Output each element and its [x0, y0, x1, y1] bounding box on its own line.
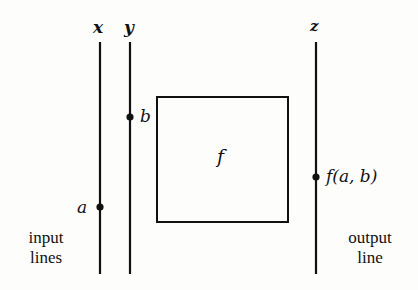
function-label-f: f — [217, 147, 224, 166]
line-label-x: x — [93, 19, 103, 36]
output-caption-line1: output — [337, 228, 403, 248]
output-line-caption: output line — [337, 228, 403, 268]
point-fab-dot — [312, 173, 319, 180]
point-b-dot — [126, 113, 133, 120]
input-lines-caption: input lines — [16, 228, 76, 268]
input-caption-line1: input — [16, 228, 76, 248]
output-caption-line2: line — [337, 248, 403, 268]
line-label-y: y — [124, 19, 134, 36]
function-diagram: x y z b a f(a, b) f input lines output l… — [0, 0, 418, 290]
point-label-b: b — [140, 108, 151, 125]
input-caption-line2: lines — [16, 248, 76, 268]
point-label-a: a — [77, 199, 87, 216]
line-label-z: z — [310, 19, 319, 34]
point-a-dot — [96, 203, 103, 210]
point-label-fab: f(a, b) — [326, 168, 377, 185]
